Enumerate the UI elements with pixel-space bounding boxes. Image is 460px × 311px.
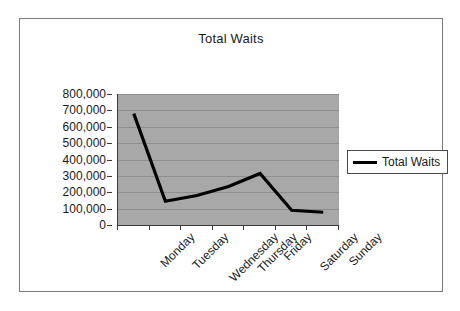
plot-svg <box>118 94 339 225</box>
y-tick-label: 400,000 <box>63 154 106 166</box>
y-tick-label: 0 <box>99 219 106 231</box>
chart-title: Total Waits <box>20 31 442 46</box>
x-tick-label: Tuesday <box>190 230 232 272</box>
y-tick-label: 300,000 <box>63 170 106 182</box>
plot-area <box>117 94 339 226</box>
y-tick-mark <box>107 143 112 144</box>
y-tick-label: 200,000 <box>63 186 106 198</box>
y-tick-mark <box>107 176 112 177</box>
y-tick-label: 600,000 <box>63 121 106 133</box>
chart-frame: Total Waits 0100,000200,000300,000400,00… <box>19 18 443 292</box>
legend-line-swatch <box>353 161 377 164</box>
y-tick-label: 500,000 <box>63 137 106 149</box>
y-tick-mark <box>107 94 112 95</box>
x-axis: MondayTuesdayWednesdayThursdayFridaySatu… <box>117 230 357 290</box>
y-tick-mark <box>107 209 112 210</box>
y-tick-mark <box>107 127 112 128</box>
y-tick-mark <box>107 110 112 111</box>
legend-label: Total Waits <box>382 155 440 169</box>
y-tick-label: 100,000 <box>63 203 106 215</box>
y-tick-label: 700,000 <box>63 104 106 116</box>
y-axis: 0100,000200,000300,000400,000500,000600,… <box>38 94 112 225</box>
y-tick-mark <box>107 225 112 226</box>
y-tick-mark <box>107 160 112 161</box>
y-tick-label: 800,000 <box>63 88 106 100</box>
chart-legend: Total Waits <box>347 150 448 174</box>
y-tick-mark <box>107 192 112 193</box>
